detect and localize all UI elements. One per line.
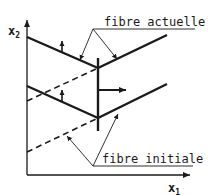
y-axis-label: x2	[8, 24, 20, 40]
diagram-canvas: x2 x1 fibre actuelle fibre initiale	[0, 0, 212, 195]
current-fiber-leader-left	[80, 29, 93, 60]
x-axis-label: x1	[168, 181, 180, 195]
initial-fiber-leader-left	[67, 136, 93, 166]
initial-fiber-lower	[27, 118, 98, 152]
initial-fiber-label: fibre initiale	[102, 152, 203, 166]
current-fiber-leader-right	[93, 29, 117, 59]
current-fiber-label: fibre actuelle	[104, 15, 205, 29]
fiber-diagram: x2 x1 fibre actuelle fibre initiale	[0, 0, 212, 195]
